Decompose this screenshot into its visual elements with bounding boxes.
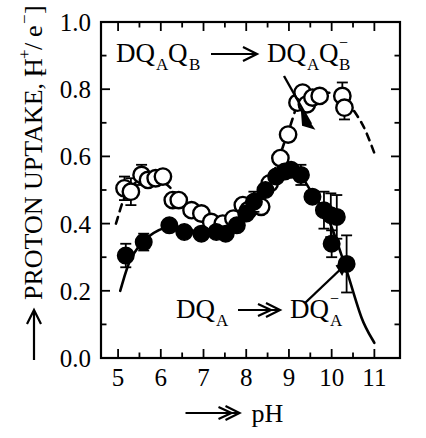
annotation-dqaqb: DQAQBDQAQ−B — [116, 34, 350, 128]
annotation-dqa: DQADQ−A — [176, 261, 348, 330]
y-axis-title-text: PROTON UPTAKE, [ — [19, 68, 48, 300]
y-tick-label: 0.0 — [60, 345, 91, 372]
y-axis-unit-bracket-close: ] — [19, 5, 48, 14]
y-axis-title: PROTON UPTAKE, [H+/e−] — [15, 5, 48, 360]
data-point-filled-circle — [304, 189, 320, 205]
x-axis-title-text: pH — [252, 399, 284, 428]
data-point-open-circle — [336, 99, 352, 115]
y-axis-unit-e-superscript: − — [15, 14, 34, 24]
annotation-top-Q2: Q — [319, 38, 339, 68]
x-tick-label: 7 — [197, 364, 210, 391]
figure-panel: 5678910110.00.20.40.60.81.0pHPROTON UPTA… — [0, 0, 426, 438]
y-tick-label: 0.6 — [60, 143, 91, 170]
annotation-bottom-DQ: DQ — [176, 294, 215, 324]
annotation-bottom-sup-minus: − — [330, 290, 339, 307]
annotation-top-sup-minus: − — [339, 34, 348, 51]
x-tick-label: 10 — [319, 364, 344, 391]
data-point-filled-circle — [136, 234, 152, 250]
annotation-top-DQ: DQ — [116, 38, 155, 68]
x-tick-label: 6 — [155, 364, 168, 391]
y-tick-label: 0.8 — [60, 76, 91, 103]
data-point-open-circle — [123, 183, 139, 199]
data-point-filled-circle — [193, 225, 209, 241]
y-axis-unit-slash: / — [19, 42, 48, 50]
annotation-bottom-subA: A — [216, 311, 229, 330]
y-axis-unit-e: e — [19, 25, 48, 37]
data-point-open-circle — [311, 88, 327, 104]
annotation-top-DQ2: DQ — [267, 38, 306, 68]
x-tick-label: 11 — [362, 364, 386, 391]
y-axis-unit-H: H — [19, 58, 48, 77]
x-axis-title: pH — [186, 399, 284, 428]
data-point-filled-circle — [257, 182, 273, 198]
data-point-filled-circle — [176, 224, 192, 240]
data-point-filled-circle — [323, 236, 339, 252]
annotation-top-pointer-head — [302, 112, 313, 128]
annotation-top-subB: B — [189, 55, 200, 74]
data-point-open-circle — [155, 168, 171, 184]
x-tick-label: 9 — [283, 364, 296, 391]
data-point-filled-circle — [329, 209, 345, 225]
data-point-filled-circle — [161, 217, 177, 233]
data-point-open-circle — [280, 126, 296, 142]
x-tick-label: 8 — [240, 364, 253, 391]
proton-uptake-vs-ph-chart: 5678910110.00.20.40.60.81.0pHPROTON UPTA… — [0, 0, 426, 438]
annotation-bottom-subA2: A — [330, 311, 343, 330]
plot-frame — [101, 22, 400, 358]
x-tick-label: 5 — [112, 364, 125, 391]
data-point-filled-circle — [293, 167, 309, 183]
y-tick-label: 0.4 — [60, 211, 92, 238]
annotation-top-Q: Q — [168, 38, 188, 68]
chart-svg-container: 5678910110.00.20.40.60.81.0pHPROTON UPTA… — [0, 0, 426, 438]
annotation-top-subB2: B — [339, 55, 350, 74]
y-tick-label: 0.2 — [60, 278, 91, 305]
y-tick-label: 1.0 — [60, 9, 91, 36]
data-point-filled-circle — [118, 247, 134, 263]
